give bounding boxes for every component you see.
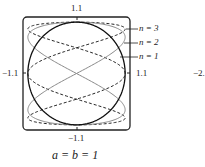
plot-area bbox=[0, 0, 205, 167]
figure-caption: a = b = 1 bbox=[52, 148, 98, 163]
